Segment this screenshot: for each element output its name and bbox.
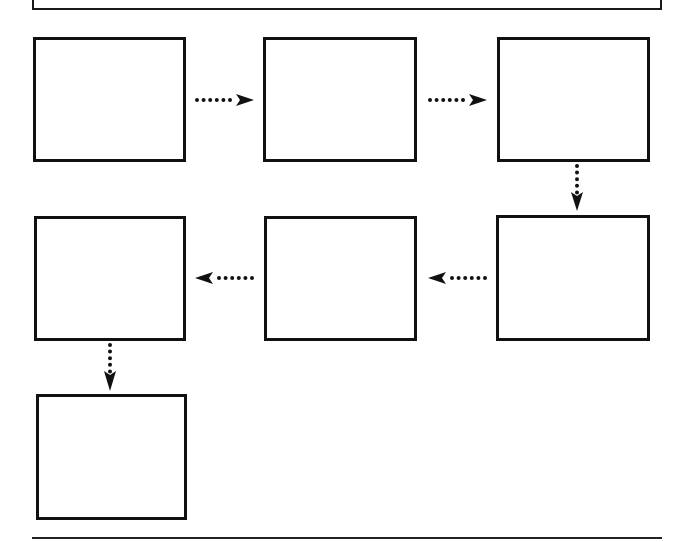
- bottom-divider-line: [32, 537, 662, 539]
- sequence-box-2: [263, 37, 417, 162]
- sequence-box-4: [496, 215, 650, 341]
- sequence-box-6: [34, 216, 186, 341]
- dotted-arrow-left-icon: [428, 272, 485, 284]
- sequence-box-3: [497, 37, 650, 162]
- dotted-arrow-down-icon: [571, 166, 583, 211]
- sequence-box-7: [36, 394, 187, 520]
- dotted-arrow-right-icon: [197, 94, 254, 106]
- title-banner-box: [32, 0, 662, 10]
- sequence-box-1: [33, 37, 186, 162]
- dotted-arrow-right-icon: [430, 94, 487, 106]
- dotted-arrow-down-icon: [104, 345, 116, 391]
- sequence-box-5: [264, 216, 417, 341]
- dotted-arrow-left-icon: [195, 272, 252, 284]
